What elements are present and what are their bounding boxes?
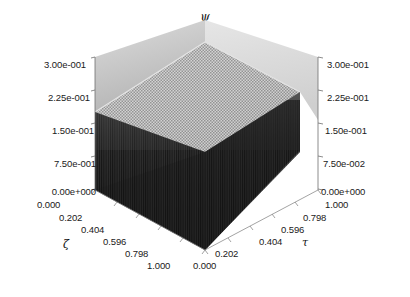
zeta-tick-4: 0.798 bbox=[125, 248, 148, 259]
tau-tick-4: 0.202 bbox=[215, 248, 238, 259]
zeta-tick-1: 0.202 bbox=[59, 212, 82, 223]
psi-left-tick-2: 1.50e-001 bbox=[10, 125, 94, 136]
psi-left-tick-3: 7.50e-001 bbox=[12, 158, 96, 169]
zeta-tick-3: 0.596 bbox=[103, 236, 126, 247]
tau-tick-0: 1.000 bbox=[325, 199, 348, 210]
psi-right-tick-4: 0.00e+000 bbox=[321, 186, 365, 197]
psi-left-tick-0: 3.00e-001 bbox=[2, 59, 86, 70]
surface-plot-canvas bbox=[0, 0, 410, 297]
zeta-tick-5: 1.000 bbox=[147, 260, 170, 271]
tau-tick-2: 0.596 bbox=[281, 224, 304, 235]
psi-right-tick-2: 1.50e-001 bbox=[325, 125, 367, 136]
psi-left-tick-1: 2.25e-001 bbox=[6, 92, 90, 103]
zeta-tick-2: 0.404 bbox=[81, 224, 104, 235]
tau-tick-1: 0.798 bbox=[303, 212, 326, 223]
psi-left-axis-line bbox=[91, 57, 95, 190]
zeta-tick-0: 0.000 bbox=[37, 199, 60, 210]
tau-tick-3: 0.404 bbox=[259, 236, 282, 247]
psi-right-tick-1: 2.25e-001 bbox=[327, 92, 369, 103]
psi-right-tick-3: 7.50e-002 bbox=[323, 158, 365, 169]
psi-left-tick-4: 0.00e+000 bbox=[12, 186, 96, 197]
tau-axis-name: τ bbox=[302, 236, 308, 249]
tau-tick-5: 0.000 bbox=[193, 260, 216, 271]
psi-right-tick-0: 3.00e-001 bbox=[327, 59, 369, 70]
zeta-axis-name: ζ bbox=[63, 238, 69, 251]
surface-plot-figure: ψ bbox=[0, 0, 410, 297]
psi-right-axis-line bbox=[318, 57, 323, 190]
